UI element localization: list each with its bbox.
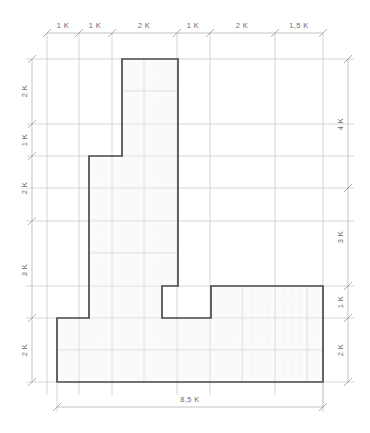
top-dim-label-3: 2 K bbox=[138, 21, 150, 30]
top-dimension-chain: 1 K 1 K 2 K 1 K 2 K 1,5 K bbox=[43, 21, 327, 37]
right-dim-label-1: 4 K bbox=[336, 118, 345, 130]
top-dim-label-4: 1 K bbox=[187, 21, 199, 30]
left-dim-label-3: 2 K bbox=[20, 182, 29, 194]
bottom-overall-dimension: 8,5 K bbox=[53, 382, 327, 412]
right-dimension-chain: 4 K 3 K 1 K 2 K bbox=[336, 55, 352, 386]
top-dim-label-2: 1 K bbox=[89, 21, 101, 30]
right-dim-label-4: 2 K bbox=[336, 344, 345, 356]
top-dim-label-5: 2 K bbox=[236, 21, 248, 30]
floor-plan-outline bbox=[57, 59, 323, 382]
top-dim-label-1: 1 K bbox=[57, 21, 69, 30]
left-dim-label-1: 2 K bbox=[20, 85, 29, 97]
left-dimension-chain: 2 K 1 K 2 K 3 K 2 K bbox=[20, 55, 36, 386]
left-dim-label-5: 2 K bbox=[20, 344, 29, 356]
bottom-dim-label-total: 8,5 K bbox=[180, 395, 200, 404]
left-dim-label-2: 1 K bbox=[20, 134, 29, 146]
floor-plan-drawing: 1 K 1 K 2 K 1 K 2 K 1,5 K 2 K 1 K 2 K 3 … bbox=[0, 0, 370, 433]
plan-svg-canvas: 1 K 1 K 2 K 1 K 2 K 1,5 K 2 K 1 K 2 K 3 … bbox=[0, 0, 370, 433]
right-dim-label-2: 3 K bbox=[336, 231, 345, 243]
top-dim-label-6: 1,5 K bbox=[289, 21, 309, 30]
right-dim-label-3: 1 K bbox=[336, 296, 345, 308]
left-dim-label-4: 3 K bbox=[20, 264, 29, 276]
